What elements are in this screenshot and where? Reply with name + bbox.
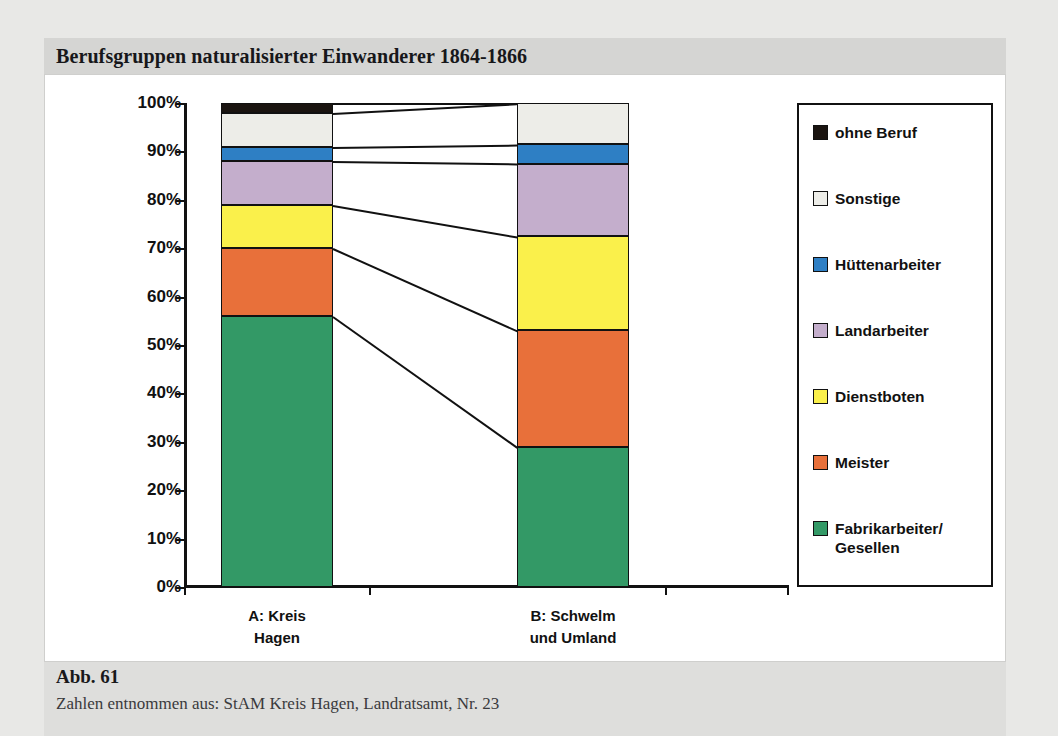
figure-number: Abb. 61 <box>56 666 119 688</box>
figure-source: Zahlen entnommen aus: StAM Kreis Hagen, … <box>56 694 499 714</box>
label-line: A: Kreis <box>187 605 367 627</box>
legend-swatch-icon <box>813 125 828 140</box>
legend-item[interactable]: Meister <box>813 453 889 472</box>
legend-item[interactable]: Fabrikarbeiter/ Gesellen <box>813 519 943 557</box>
chart-title: Berufsgruppen naturalisierter Einwandere… <box>44 45 527 68</box>
legend-swatch-icon <box>813 191 828 206</box>
legend-item-label: Dienstboten <box>835 387 925 406</box>
connector-line <box>333 205 517 238</box>
bar-segment <box>517 447 629 587</box>
caption-band: Abb. 61 Zahlen entnommen aus: StAM Kreis… <box>44 662 1006 736</box>
bar-column <box>517 103 629 587</box>
connector-line <box>333 161 517 165</box>
chart-legend: ohne BerufSonstigeHüttenarbeiterLandarbe… <box>797 103 993 587</box>
chart-area: 0%10%20%30%40%50%60%70%80%90%100% A: Kre… <box>44 74 1006 662</box>
connector-line <box>332 316 517 448</box>
x-axis-tick-mark <box>184 585 186 595</box>
bar-segment <box>517 103 629 144</box>
legend-item-label: Landarbeiter <box>835 321 929 340</box>
label-line: Hagen <box>187 627 367 649</box>
bar-column <box>221 103 333 587</box>
bar-segment <box>221 205 333 249</box>
bar-segment <box>517 236 629 330</box>
connector-line <box>333 144 517 148</box>
legend-swatch-icon <box>813 323 828 338</box>
x-axis-tick-mark <box>369 585 371 595</box>
legend-item-label: Hüttenarbeiter <box>835 255 941 274</box>
label-line: und Umland <box>483 627 663 649</box>
connector-line <box>333 248 518 332</box>
legend-item[interactable]: ohne Beruf <box>813 123 917 142</box>
legend-item-label: Meister <box>835 453 889 472</box>
legend-item-label: ohne Beruf <box>835 123 917 142</box>
x-axis-category-label: B: Schwelmund Umland <box>483 605 663 649</box>
bar-segment <box>221 113 333 147</box>
legend-swatch-icon <box>813 389 828 404</box>
legend-item[interactable]: Dienstboten <box>813 387 925 406</box>
legend-item-label: Sonstige <box>835 189 900 208</box>
connector-line <box>333 103 517 105</box>
bar-segment <box>517 330 629 446</box>
legend-swatch-icon <box>813 455 828 470</box>
bar-segment <box>221 161 333 205</box>
bar-segment <box>517 144 629 163</box>
legend-swatch-icon <box>813 257 828 272</box>
bar-segment <box>221 316 333 587</box>
x-axis-tick-mark <box>665 585 667 595</box>
bar-segment <box>517 164 629 237</box>
bar-segment <box>221 103 333 113</box>
figure-container: Berufsgruppen naturalisierter Einwandere… <box>0 0 1058 736</box>
y-axis-line <box>184 103 187 587</box>
y-axis-tick-label: 100% <box>138 93 181 113</box>
plot-wrapper: 0%10%20%30%40%50%60%70%80%90%100% A: Kre… <box>45 75 1007 663</box>
chart-title-band: Berufsgruppen naturalisierter Einwandere… <box>44 38 1006 74</box>
bar-segment <box>221 147 333 162</box>
legend-item[interactable]: Hüttenarbeiter <box>813 255 941 274</box>
legend-item[interactable]: Landarbeiter <box>813 321 929 340</box>
legend-item-label: Fabrikarbeiter/ Gesellen <box>835 519 943 557</box>
x-axis-tick-mark <box>787 585 789 595</box>
bar-segment <box>221 248 333 316</box>
legend-item[interactable]: Sonstige <box>813 189 900 208</box>
y-axis-labels: 0%10%20%30%40%50%60%70%80%90%100% <box>75 75 181 663</box>
x-axis-category-label: A: KreisHagen <box>187 605 367 649</box>
legend-swatch-icon <box>813 521 828 536</box>
label-line: B: Schwelm <box>483 605 663 627</box>
